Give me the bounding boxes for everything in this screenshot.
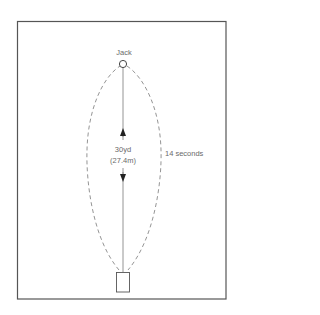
mat-rectangle: [117, 273, 130, 293]
jack-label: Jack: [113, 49, 135, 57]
distance-metric-label: (27.4m): [106, 157, 140, 165]
arrow-up-icon: [120, 128, 126, 136]
distance-yards-label: 30yd: [108, 146, 138, 154]
time-label: 14 seconds: [165, 150, 203, 158]
label-gap: [108, 137, 138, 172]
arrow-down-icon: [120, 174, 126, 182]
jack-circle-icon: [119, 60, 126, 67]
